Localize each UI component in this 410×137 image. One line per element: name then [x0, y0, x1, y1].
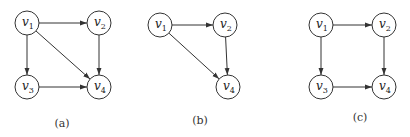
edge-v1-v4	[169, 33, 219, 79]
edge-v1-v4	[36, 31, 90, 79]
graph-a: v1v2v3v4(a)	[15, 11, 111, 130]
graph-caption: (b)	[192, 114, 208, 127]
node-v3: v3	[309, 75, 333, 99]
edge-v2-v4	[226, 37, 228, 75]
node-v1: v1	[148, 13, 172, 37]
node-v2: v2	[372, 13, 396, 37]
node-v3: v3	[15, 75, 39, 99]
graph-diagrams: v1v2v3v4(a) v1v2v4(b) v1v2v3v4(c)	[0, 0, 410, 137]
node-v4: v4	[87, 75, 111, 99]
node-v2: v2	[213, 13, 237, 37]
node-v1: v1	[309, 13, 333, 37]
node-v1: v1	[15, 11, 39, 35]
graph-caption: (a)	[54, 117, 69, 130]
node-v4: v4	[372, 75, 396, 99]
node-v2: v2	[87, 11, 111, 35]
node-v4: v4	[216, 75, 240, 99]
graph-b: v1v2v4(b)	[148, 13, 240, 127]
graph-c: v1v2v3v4(c)	[309, 13, 396, 124]
graph-caption: (c)	[353, 111, 368, 124]
